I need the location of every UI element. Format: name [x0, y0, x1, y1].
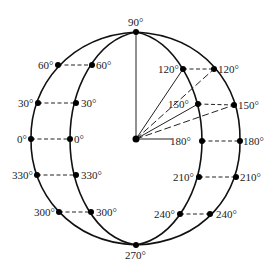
dot-left-outer-300 [56, 209, 62, 215]
dot-left-inner-330 [73, 172, 79, 178]
top-dot [133, 29, 139, 35]
label-left-outer-330: 330° [12, 169, 33, 181]
dot-left-outer-0 [28, 136, 34, 142]
label-left-outer-300: 300° [34, 206, 55, 218]
dot-left-inner-300 [88, 209, 94, 215]
dot-left-outer-330 [34, 172, 40, 178]
label-left-inner-30: 30° [81, 97, 96, 109]
dot-left-inner-0 [67, 136, 73, 142]
dot-right-inner-120 [180, 66, 186, 72]
dot-left-inner-60 [89, 62, 95, 68]
radial-line-150-outer [136, 105, 234, 139]
label-right-outer-240: 240° [216, 208, 237, 220]
label-right-outer-120: 120° [218, 63, 239, 75]
bottom-dot [133, 242, 139, 248]
dot-left-inner-30 [73, 100, 79, 106]
label-left-outer-60: 60° [38, 59, 53, 71]
dot-right-outer-120 [211, 66, 217, 72]
label-right-outer-180: 180° [243, 135, 264, 147]
center-dot [133, 136, 140, 143]
dot-right-outer-210 [233, 174, 239, 180]
dot-left-outer-30 [35, 100, 41, 106]
label-left-outer-0: 0° [17, 133, 27, 145]
label-right-inner-240: 240° [154, 208, 175, 220]
dot-right-inner-210 [196, 174, 202, 180]
label-right-outer-150: 150° [238, 99, 259, 111]
label-left-inner-300: 300° [96, 206, 117, 218]
projection-150 [198, 104, 234, 105]
label-right-inner-210: 210° [173, 171, 194, 183]
label-left-inner-0: 0° [74, 133, 84, 145]
label-right-inner-150: 150° [168, 98, 189, 110]
angle-diagram: 90° 270° 60° 30° 0° 330° 300° 60° 30° 0°… [0, 0, 274, 272]
label-right-inner-120: 120° [158, 63, 179, 75]
label-top: 90° [128, 16, 143, 28]
dot-right-outer-240 [207, 211, 213, 217]
dot-right-outer-150 [231, 102, 237, 108]
label-right-inner-180: 180° [170, 135, 191, 147]
label-left-outer-30: 30° [18, 97, 33, 109]
dot-right-inner-150 [195, 101, 201, 107]
dot-right-inner-180 [199, 138, 205, 144]
label-bottom: 270° [125, 249, 146, 261]
label-right-outer-210: 210° [240, 171, 261, 183]
dot-right-inner-240 [177, 211, 183, 217]
dot-left-outer-60 [55, 62, 61, 68]
label-left-inner-330: 330° [81, 169, 102, 181]
label-left-inner-60: 60° [96, 59, 111, 71]
